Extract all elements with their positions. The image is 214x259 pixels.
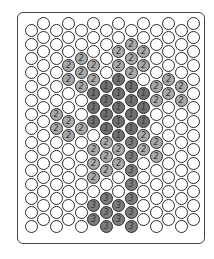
bead-cell (87, 31, 100, 44)
bead-cell: 2 (62, 115, 75, 128)
bead-cell (137, 17, 150, 30)
bead-cell: 1 (125, 80, 138, 93)
bead-cell (187, 73, 200, 86)
bead-cell: 1 (87, 87, 100, 100)
bead-cell: 3 (125, 206, 138, 219)
bead-cell: 2 (75, 66, 88, 79)
bead-cell (25, 108, 38, 121)
bead-cell (162, 59, 175, 72)
bead-cell (175, 66, 188, 79)
bead-cell (187, 101, 200, 114)
bead-cell (25, 94, 38, 107)
bead-cell (187, 185, 200, 198)
bead-cell: 2 (162, 73, 175, 86)
bead-cell (162, 31, 175, 44)
bead-cell (175, 220, 188, 233)
bead-cell (75, 108, 88, 121)
bead-cell (37, 213, 50, 226)
bead-cell: 2 (175, 94, 188, 107)
bead-cell (187, 129, 200, 142)
bead-cell (75, 220, 88, 233)
bead-cell (150, 66, 163, 79)
bead-cell (50, 192, 63, 205)
bead-cell (187, 143, 200, 156)
bead-cell (62, 45, 75, 58)
bead-cell: 3 (112, 213, 125, 226)
bead-cell (175, 24, 188, 37)
bead-cell: 1 (112, 73, 125, 86)
bead-cell (25, 220, 38, 233)
bead-cell (50, 24, 63, 37)
bead-cell: 1 (125, 122, 138, 135)
bead-cell (175, 108, 188, 121)
bead-cell (162, 17, 175, 30)
bead-cell: 3 (125, 220, 138, 233)
bead-cell: 2 (125, 38, 138, 51)
bead-cell (162, 171, 175, 184)
bead-cell: 2 (62, 73, 75, 86)
bead-cell (187, 59, 200, 72)
bead-cell (162, 115, 175, 128)
bead-cell (62, 171, 75, 184)
bead-cell (75, 164, 88, 177)
bead-cell (162, 157, 175, 170)
bead-cell (187, 171, 200, 184)
bead-cell: 2 (137, 129, 150, 142)
bead-cell (75, 94, 88, 107)
bead-cell: 1 (137, 115, 150, 128)
bead-cell (25, 136, 38, 149)
bead-cell (75, 136, 88, 149)
bead-cell (50, 66, 63, 79)
bead-cell: 1 (112, 129, 125, 142)
bead-cell: 1 (100, 94, 113, 107)
bead-cell: 1 (112, 101, 125, 114)
bead-cell (75, 178, 88, 191)
bead-cell (50, 52, 63, 65)
bead-cell: 2 (62, 59, 75, 72)
bead-cell (162, 199, 175, 212)
bead-cell (37, 17, 50, 30)
bead-cell (187, 17, 200, 30)
bead-cell (100, 66, 113, 79)
bead-cell (175, 178, 188, 191)
bead-cell (175, 192, 188, 205)
bead-cell: 3 (100, 220, 113, 233)
bead-cell (112, 17, 125, 30)
bead-cell (50, 38, 63, 51)
bead-cell (62, 157, 75, 170)
bead-cell: 2 (75, 122, 88, 135)
bead-cell (175, 52, 188, 65)
bead-cell (187, 31, 200, 44)
bead-cell (62, 143, 75, 156)
bead-cell (62, 87, 75, 100)
bead-cell: 2 (50, 108, 63, 121)
bead-cell (187, 199, 200, 212)
bead-cell: 3 (125, 136, 138, 149)
bead-cell (25, 178, 38, 191)
bead-cell (37, 199, 50, 212)
bead-cell (162, 45, 175, 58)
bead-cell (137, 171, 150, 184)
bead-cell: 2 (87, 73, 100, 86)
bead-cell (50, 220, 63, 233)
bead-cell: 3 (125, 164, 138, 177)
bead-cell (175, 206, 188, 219)
bead-cell: 2 (125, 52, 138, 65)
bead-cell (37, 59, 50, 72)
bead-cell: 3 (100, 192, 113, 205)
bead-cell (100, 178, 113, 191)
bead-cell (62, 213, 75, 226)
bead-cell: 3 (87, 199, 100, 212)
bead-cell (137, 31, 150, 44)
bead-cell (112, 171, 125, 184)
bead-cell (137, 213, 150, 226)
bead-cell: 2 (137, 59, 150, 72)
bead-cell: 2 (175, 80, 188, 93)
bead-cell: 2 (75, 52, 88, 65)
bead-cell (175, 150, 188, 163)
bead-cell (162, 185, 175, 198)
bead-cell (75, 192, 88, 205)
bead-cell (150, 206, 163, 219)
bead-cell: 2 (150, 94, 163, 107)
bead-cell (137, 199, 150, 212)
